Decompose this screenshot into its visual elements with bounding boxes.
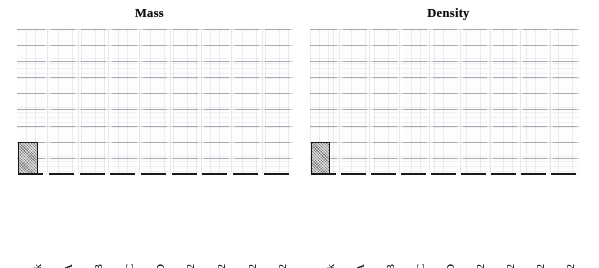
panel-mass: Mass: [0, 0, 299, 268]
x-tick-density-0: Original block: [310, 176, 340, 266]
bar-slot-mass-4: [140, 29, 171, 174]
bar-mass-original-block: [18, 142, 37, 174]
bar-slot-mass-3: [109, 29, 140, 174]
x-tick-label-mass-5: (Block A)/2: [184, 264, 196, 268]
bar-slot-density-7: [520, 29, 550, 174]
x-tick-label-density-3: Block C: [414, 264, 426, 268]
x-tick-label-mass-2: Block B: [92, 264, 104, 268]
x-tick-label-mass-0: Original block: [31, 264, 43, 268]
x-tick-label-density-8: (Block D)/2: [564, 264, 576, 268]
x-tick-label-mass-7: (Block C)/2: [246, 264, 258, 268]
x-tick-mass-1: Block A: [48, 176, 79, 266]
x-tick-label-mass-4: Block D: [154, 264, 166, 268]
bar-slot-mass-2: [78, 29, 109, 174]
x-tick-density-8: (Block D)/2: [550, 176, 580, 266]
bar-slot-mass-8: [262, 29, 293, 174]
bar-slot-density-0: [310, 29, 340, 174]
bar-density-original-block: [311, 142, 330, 174]
x-tick-label-density-2: Block B: [384, 264, 396, 268]
x-axis-tick-labels-mass: Original block Block A Block B Block C B…: [17, 176, 293, 266]
bar-slot-density-8: [550, 29, 580, 174]
bar-series-density: [310, 29, 580, 174]
x-tick-label-mass-3: Block C: [123, 264, 135, 268]
x-tick-density-6: (Block B)/2: [490, 176, 520, 266]
x-tick-label-density-5: (Block A)/2: [474, 264, 486, 268]
x-axis-tick-labels-density: Original block Block A Block B Block C B…: [310, 176, 580, 266]
x-tick-label-mass-6: (Block B)/2: [215, 264, 227, 268]
bar-series-mass: [17, 29, 293, 174]
x-tick-density-3: Block C: [400, 176, 430, 266]
x-tick-mass-6: (Block B)/2: [201, 176, 232, 266]
x-tick-label-mass-8: (Block D)/2: [276, 264, 288, 268]
bar-slot-mass-0: [17, 29, 48, 174]
x-tick-label-density-1: Block A: [354, 264, 366, 268]
bar-slot-mass-6: [201, 29, 232, 174]
bar-slot-mass-1: [48, 29, 79, 174]
x-tick-mass-5: (Block A)/2: [170, 176, 201, 266]
x-tick-density-1: Block A: [340, 176, 370, 266]
page-title-mass: Mass: [0, 6, 299, 21]
bar-slot-mass-5: [170, 29, 201, 174]
x-tick-label-density-0: Original block: [324, 264, 336, 268]
x-tick-label-density-6: (Block B)/2: [504, 264, 516, 268]
bar-slot-density-2: [370, 29, 400, 174]
page-title-density: Density: [299, 6, 598, 21]
bar-slot-density-5: [460, 29, 490, 174]
panel-density: Density: [299, 0, 598, 268]
bar-slot-density-6: [490, 29, 520, 174]
x-tick-density-4: Block D: [430, 176, 460, 266]
x-tick-mass-2: Block B: [78, 176, 109, 266]
x-tick-mass-4: Block D: [140, 176, 171, 266]
x-tick-mass-8: (Block D)/2: [262, 176, 293, 266]
x-tick-mass-3: Block C: [109, 176, 140, 266]
x-tick-label-mass-1: Block A: [62, 264, 74, 268]
bar-slot-mass-7: [232, 29, 263, 174]
x-tick-label-density-4: Block D: [444, 264, 456, 268]
plot-area-mass: [17, 29, 293, 174]
x-tick-label-density-7: (Block C)/2: [534, 264, 546, 268]
bar-slot-density-4: [430, 29, 460, 174]
bar-slot-density-1: [340, 29, 370, 174]
plot-area-density: [310, 29, 580, 174]
x-tick-density-2: Block B: [370, 176, 400, 266]
x-tick-density-7: (Block C)/2: [520, 176, 550, 266]
bar-slot-density-3: [400, 29, 430, 174]
two-panel-bar-figure: Mass: [0, 0, 599, 268]
x-tick-mass-7: (Block C)/2: [232, 176, 263, 266]
x-tick-density-5: (Block A)/2: [460, 176, 490, 266]
x-tick-mass-0: Original block: [17, 176, 48, 266]
